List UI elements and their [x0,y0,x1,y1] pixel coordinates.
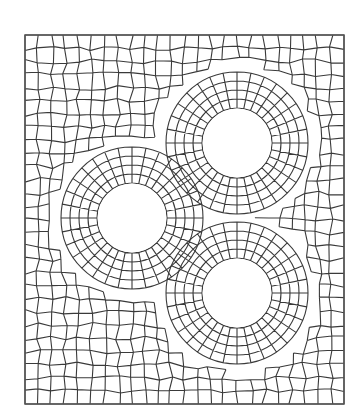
hole-left [98,184,167,253]
mesh-canvas [0,0,364,417]
hole-bottom-right [203,259,272,328]
mesh-lines [25,35,344,404]
mesh-diagram [0,0,364,417]
hole-top-right [203,109,272,178]
